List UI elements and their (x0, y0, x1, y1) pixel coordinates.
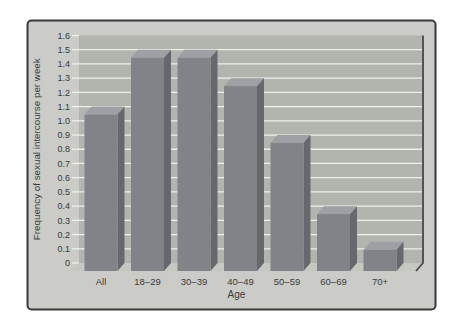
y-tick-label: 1.0 (57, 116, 70, 126)
y-tick-label: 1.1 (57, 102, 70, 112)
bar-side-face (350, 206, 357, 271)
bar-front-face (224, 86, 257, 271)
bar-side-face (211, 50, 218, 271)
x-tick-label: 30–39 (181, 276, 207, 287)
y-tick-label: 1.5 (57, 45, 70, 55)
bar-chart: 00.10.20.30.40.50.60.70.80.91.01.11.21.3… (0, 0, 464, 323)
bar-top-face (131, 50, 171, 58)
x-tick-label: 40–49 (227, 276, 253, 287)
bar-front-face (317, 214, 350, 271)
bar-50–59 (271, 135, 311, 271)
bar-top-face (85, 107, 125, 115)
y-tick-label: 0.5 (57, 187, 70, 197)
bar-top-face (178, 50, 218, 58)
y-tick-label: 1.3 (57, 73, 70, 83)
y-tick-label: 0.2 (57, 230, 70, 240)
y-axis-label: Frequency of sexual intercourse per week (31, 58, 42, 240)
y-tick-label: 0.1 (57, 244, 70, 254)
bar-30–39 (178, 50, 218, 271)
bar-top-face (224, 78, 264, 86)
y-tick-label: 0.7 (57, 159, 70, 169)
y-tick-label: 0.9 (57, 130, 70, 140)
bar-front-face (178, 58, 211, 271)
x-tick-label: 70+ (372, 276, 389, 287)
x-tick-label: All (96, 276, 107, 287)
y-tick-label: 0.4 (57, 201, 70, 211)
y-tick-label: 0.6 (57, 173, 70, 183)
bar-40–49 (224, 78, 264, 271)
y-tick-label: 1.4 (57, 59, 70, 69)
bar-18–29 (131, 50, 171, 271)
bar-front-face (271, 143, 304, 271)
y-tick-label: 1.2 (57, 88, 70, 98)
bar-70+ (364, 242, 404, 271)
bar-side-face (304, 135, 311, 271)
x-axis-label: Age (228, 289, 246, 300)
x-tick-label: 18–29 (134, 276, 160, 287)
y-tick-label: 0.8 (57, 144, 70, 154)
bar-side-face (118, 107, 125, 271)
page: 00.10.20.30.40.50.60.70.80.91.01.11.21.3… (0, 0, 464, 323)
bar-front-face (364, 250, 397, 271)
bar-side-face (257, 78, 264, 271)
bar-top-face (317, 206, 357, 214)
x-tick-label: 50–59 (274, 276, 300, 287)
bar-top-face (271, 135, 311, 143)
y-tick-label: 0 (65, 258, 70, 268)
bar-All (85, 107, 125, 271)
y-tick-label: 0.3 (57, 216, 70, 226)
bar-front-face (85, 115, 118, 271)
bar-side-face (164, 50, 171, 271)
x-tick-label: 60–69 (320, 276, 346, 287)
y-tick-label: 1.6 (57, 31, 70, 41)
bar-top-face (364, 242, 404, 250)
bar-front-face (131, 58, 164, 271)
bar-60–69 (317, 206, 357, 271)
